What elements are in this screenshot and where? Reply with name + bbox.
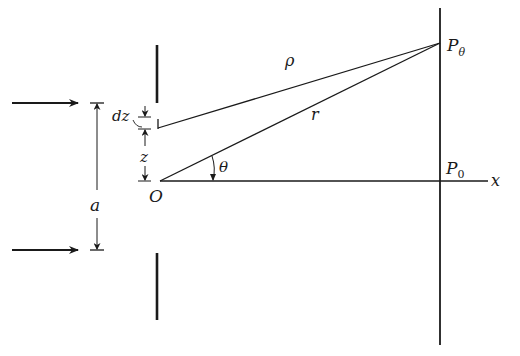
ray-r <box>160 43 440 181</box>
slit-width-dimension <box>90 103 104 250</box>
r-label: r <box>311 105 320 124</box>
rho-label: ρ <box>284 51 295 70</box>
theta-label: θ <box>219 158 228 176</box>
origin-label: O <box>149 186 163 206</box>
dz-dimension <box>133 106 151 140</box>
dz-label: dz <box>112 107 130 125</box>
p-theta-label: Pθ <box>446 35 465 59</box>
diffraction-diagram: a dz z x ρ r θ O Pθ P0 <box>0 0 520 356</box>
slit-width-label: a <box>90 195 100 215</box>
x-axis-label: x <box>491 171 500 190</box>
z-label: z <box>139 148 148 166</box>
p-theta-subscript: θ <box>458 46 465 59</box>
p-zero-label: P0 <box>445 158 464 181</box>
ray-rho <box>158 43 440 128</box>
p-zero-subscript: 0 <box>457 168 464 181</box>
